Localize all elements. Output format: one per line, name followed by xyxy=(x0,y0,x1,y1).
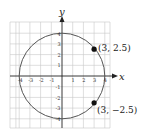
x-tick: 2 xyxy=(82,77,85,83)
y-axis-label: y xyxy=(58,6,65,17)
x-axis-arrow-icon xyxy=(112,74,118,79)
x-tick: -2 xyxy=(39,77,44,83)
y-tick: 2 xyxy=(58,52,61,58)
point-marker xyxy=(92,100,97,105)
x-tick: -4 xyxy=(18,77,23,83)
x-tick: 4 xyxy=(104,77,107,83)
coordinate-plane: -4 -3 -2 -1 1 2 3 4 4 3 2 1 -1 -2 -3 -4 … xyxy=(0,0,143,134)
point-label: (3, −2.5) xyxy=(97,105,137,115)
y-tick: -4 xyxy=(56,116,61,122)
x-tick: -1 xyxy=(50,77,55,83)
y-tick: 4 xyxy=(58,31,61,37)
x-axis-label: x xyxy=(119,71,125,82)
y-tick: 3 xyxy=(58,41,61,47)
y-tick: 1 xyxy=(58,62,61,68)
point-marker xyxy=(92,47,97,52)
x-tick: 3 xyxy=(93,77,96,83)
point-label: (3, 2.5) xyxy=(98,43,131,53)
y-tick: -3 xyxy=(56,105,61,111)
x-tick: -3 xyxy=(28,77,33,83)
grid xyxy=(10,22,110,128)
y-tick: -1 xyxy=(56,84,61,90)
x-tick: 1 xyxy=(72,77,75,83)
y-tick: -2 xyxy=(56,95,61,101)
